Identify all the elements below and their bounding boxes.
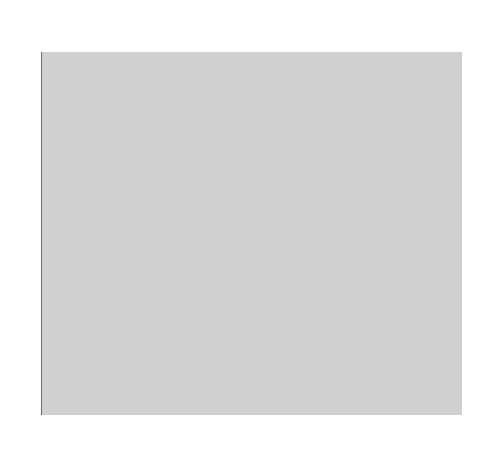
plot-area <box>41 52 462 415</box>
free-running-swath <box>41 52 462 415</box>
actogram-figure <box>0 0 481 450</box>
